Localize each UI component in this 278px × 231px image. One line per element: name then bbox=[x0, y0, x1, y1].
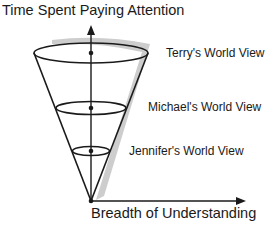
michael-dot bbox=[89, 106, 94, 111]
terry-dot bbox=[89, 51, 94, 56]
jennifer-label: Jennifer's World View bbox=[129, 144, 244, 158]
michael-label: Michael's World View bbox=[148, 100, 261, 114]
origin-dot bbox=[89, 199, 94, 204]
jennifer-dot bbox=[89, 149, 94, 154]
cone-diagram bbox=[0, 0, 278, 231]
y-axis-label: Time Spent Paying Attention bbox=[2, 2, 184, 18]
terry-label: Terry's World View bbox=[166, 46, 265, 60]
x-axis-arrow-icon bbox=[236, 197, 246, 205]
cone-left-edge bbox=[34, 53, 91, 201]
cone-right-edge bbox=[91, 53, 148, 201]
x-axis-label: Breadth of Understanding bbox=[91, 205, 256, 221]
y-axis-arrow-icon bbox=[87, 25, 95, 35]
